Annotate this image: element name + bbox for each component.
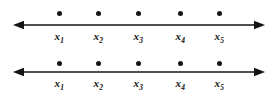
point-label-subscript: 4: [181, 36, 185, 45]
point-label-base: x: [133, 30, 139, 42]
point-label-subscript: 3: [139, 36, 143, 45]
point-label-subscript: 5: [220, 36, 224, 45]
point-label-base: x: [93, 30, 99, 42]
point-label-subscript: 4: [181, 83, 185, 92]
point-label-x3: x3: [133, 78, 142, 89]
point-label-x2: x2: [93, 78, 102, 89]
point-label-subscript: 1: [60, 83, 64, 92]
point-label-subscript: 3: [139, 83, 143, 92]
point-dot-x3: [136, 61, 141, 66]
point-label-x4: x4: [175, 78, 184, 89]
point-dot-x1: [57, 11, 62, 16]
number-line-1: x1x2x3x4x5: [0, 0, 277, 50]
point-dot-x3: [136, 11, 141, 16]
point-label-subscript: 5: [220, 83, 224, 92]
point-label-x5: x5: [214, 31, 223, 42]
point-label-base: x: [214, 30, 220, 42]
point-label-base: x: [175, 77, 181, 89]
arrowhead-left-icon: [13, 68, 24, 76]
point-dot-x2: [96, 11, 101, 16]
point-label-x5: x5: [214, 78, 223, 89]
number-line-figure: x1x2x3x4x5x1x2x3x4x5: [0, 0, 277, 100]
point-label-x1: x1: [54, 31, 63, 42]
point-label-base: x: [93, 77, 99, 89]
point-label-x4: x4: [175, 31, 184, 42]
point-dot-x5: [217, 61, 222, 66]
point-label-x3: x3: [133, 31, 142, 42]
point-label-subscript: 1: [60, 36, 64, 45]
point-label-x2: x2: [93, 31, 102, 42]
number-line-2: x1x2x3x4x5: [0, 47, 277, 97]
point-label-base: x: [54, 77, 60, 89]
arrowhead-left-icon: [13, 21, 24, 29]
point-label-base: x: [54, 30, 60, 42]
arrowhead-right-icon: [254, 68, 265, 76]
point-label-subscript: 2: [99, 83, 103, 92]
point-dot-x4: [178, 11, 183, 16]
point-label-base: x: [214, 77, 220, 89]
point-dot-x5: [217, 11, 222, 16]
point-label-base: x: [175, 30, 181, 42]
point-label-subscript: 2: [99, 36, 103, 45]
point-dot-x1: [57, 61, 62, 66]
arrowhead-right-icon: [254, 21, 265, 29]
point-dot-x2: [96, 61, 101, 66]
point-label-base: x: [133, 77, 139, 89]
point-dot-x4: [178, 61, 183, 66]
point-label-x1: x1: [54, 78, 63, 89]
